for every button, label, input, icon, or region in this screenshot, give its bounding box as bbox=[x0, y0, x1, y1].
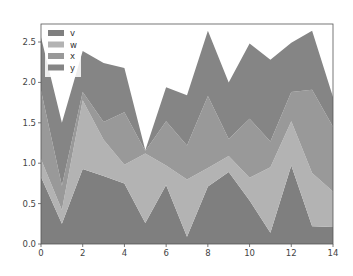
legend-label-w: w bbox=[70, 40, 77, 50]
x-tick-label: 10 bbox=[244, 248, 255, 258]
x-tick-label: 4 bbox=[122, 248, 127, 258]
legend-label-v: v bbox=[70, 28, 75, 38]
legend-swatch-y bbox=[48, 65, 64, 71]
y-tick-label: 1.0 bbox=[22, 158, 36, 168]
legend-swatch-x bbox=[48, 53, 64, 59]
stacked-area-chart: 02468101214 0.00.51.01.52.02.5 vwxy bbox=[0, 0, 353, 276]
legend: vwxy bbox=[45, 27, 81, 77]
y-tick-label: 2.5 bbox=[22, 37, 36, 47]
y-tick-label: 0.0 bbox=[22, 239, 36, 249]
legend-label-x: x bbox=[70, 51, 75, 61]
y-tick-label: 1.5 bbox=[22, 118, 36, 128]
x-tick-label: 6 bbox=[163, 248, 168, 258]
legend-label-y: y bbox=[70, 63, 75, 73]
x-tick-label: 2 bbox=[80, 248, 85, 258]
x-tick-label: 12 bbox=[286, 248, 297, 258]
y-tick-label: 2.0 bbox=[22, 77, 36, 87]
legend-swatch-v bbox=[48, 30, 64, 36]
x-tick-label: 0 bbox=[38, 248, 43, 258]
y-axis: 0.00.51.01.52.02.5 bbox=[22, 37, 41, 249]
legend-swatch-w bbox=[48, 42, 64, 48]
x-axis: 02468101214 bbox=[38, 244, 338, 258]
x-tick-label: 14 bbox=[328, 248, 339, 258]
y-tick-label: 0.5 bbox=[22, 199, 36, 209]
plot-areas bbox=[41, 31, 333, 244]
x-tick-label: 8 bbox=[205, 248, 210, 258]
